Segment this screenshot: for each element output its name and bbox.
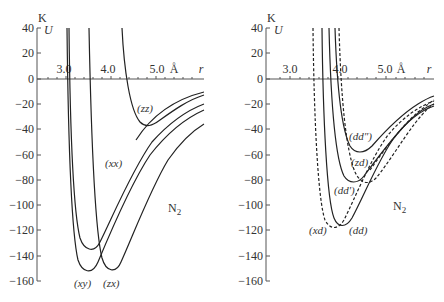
left-molecule-label: N2	[168, 201, 181, 217]
label-dd: (dd)	[349, 224, 368, 237]
left-ytick-20: 20	[22, 46, 34, 60]
left-ytick-40: 40	[22, 21, 34, 35]
right-x-unit: Å	[397, 62, 406, 76]
label-xd: (xd)	[309, 224, 327, 237]
label-zx: (zx)	[103, 277, 120, 290]
right-ytick-40: 40	[251, 21, 263, 35]
left-ytick-m40: −40	[15, 122, 34, 136]
right-xtick-3: 3.0	[283, 62, 298, 76]
right-x-var: r	[427, 62, 432, 76]
right-ytick-m80: −80	[244, 173, 263, 187]
right-ytick-m60: −60	[244, 148, 263, 162]
right-molecule-label: N2	[393, 199, 406, 215]
right-y-ticks	[266, 28, 270, 281]
left-x-unit: Å	[170, 62, 179, 76]
right-ytick-m40: −40	[244, 122, 263, 136]
left-y-var: U	[44, 23, 54, 37]
label-zz: (zz)	[137, 102, 153, 115]
left-xtick-5: 5.0	[150, 62, 165, 76]
right-ytick-0: 0	[257, 72, 263, 86]
left-panel: 40 20 0 −20 −40 −60 −80 −100 −120 −140 −…	[9, 11, 204, 290]
label-ddp: (dd′)	[334, 184, 355, 197]
label-ddpp: (dd″)	[349, 130, 372, 143]
left-ytick-0: 0	[28, 72, 34, 86]
left-ytick-m120: −120	[9, 223, 34, 237]
right-ytick-20: 20	[251, 46, 263, 60]
right-xtick-5: 5.0	[378, 62, 393, 76]
right-ytick-m140: −140	[238, 249, 263, 263]
label-zd: (zd)	[351, 156, 368, 169]
left-y-ticks	[37, 28, 41, 281]
left-ytick-m100: −100	[9, 198, 34, 212]
right-ytick-m20: −20	[244, 97, 263, 111]
curve-xd	[313, 28, 434, 228]
left-xtick-4: 4.0	[101, 62, 116, 76]
label-xy: (xy)	[74, 277, 91, 290]
label-xx: (xx)	[105, 157, 122, 170]
right-ytick-m100: −100	[238, 198, 263, 212]
left-ytick-m20: −20	[15, 97, 34, 111]
left-ytick-m80: −80	[15, 173, 34, 187]
left-x-var: r	[199, 62, 204, 76]
chart-canvas: 40 20 0 −20 −40 −60 −80 −100 −120 −140 −…	[0, 0, 444, 302]
right-ytick-m160: −160	[238, 274, 263, 288]
left-ytick-m140: −140	[9, 249, 34, 263]
left-ytick-m60: −60	[15, 148, 34, 162]
curve-xy	[67, 28, 204, 271]
right-ytick-m120: −120	[238, 223, 263, 237]
left-ytick-m160: −160	[9, 274, 34, 288]
right-y-var: U	[274, 23, 284, 37]
right-panel: 40 20 0 −20 −40 −60 −80 −100 −120 −140 −…	[238, 11, 434, 288]
